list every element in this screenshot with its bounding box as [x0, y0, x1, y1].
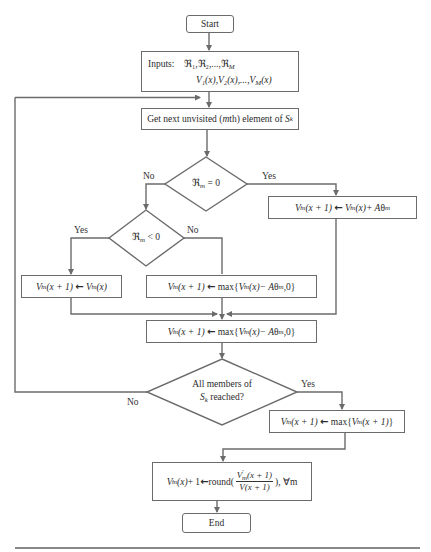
- start-label: Start: [201, 19, 219, 29]
- merge-update-box: V′m(x + 1) ← max{V′m(x) − Aθm,0}: [146, 320, 317, 343]
- max-open: max{: [218, 282, 239, 292]
- decision-1-yes-label: Yes: [262, 171, 276, 181]
- inputs-box: Inputs: ℜ₁,ℜ₂,...,ℜM V₁(x),V₂(x),...,VM(…: [141, 51, 299, 92]
- all-members-text: All members of: [177, 378, 267, 391]
- end-label: End: [209, 518, 224, 528]
- of-x: (x): [177, 477, 188, 487]
- fraction-numerator: V′m(x + 1): [236, 470, 273, 482]
- max-open: max{: [331, 417, 352, 427]
- max-step-box: V′m(x + 1) ← max{V′m(x + 1)}: [269, 410, 405, 433]
- decision-3-yes-label: Yes: [301, 379, 315, 389]
- decision-r-equals-zero-label: ℜm = 0: [176, 177, 236, 190]
- comma-zero: ,0}: [284, 282, 296, 292]
- x-plus-1: (x + 1): [178, 327, 204, 337]
- bottom-rule: [15, 547, 420, 549]
- max-open: max{: [218, 327, 239, 337]
- frak-r: ℜ: [192, 178, 200, 188]
- x-plus-1: (x + 1): [291, 417, 317, 427]
- get-next-element-box: Get next unvisited (mth) element of Sk: [141, 108, 299, 130]
- round-step-box: V′m(x) + 1 ←round(V′m(x + 1)V(x + 1)), ∀…: [152, 462, 312, 501]
- decision-2-no-label: No: [187, 225, 199, 235]
- lt-zero: < 0: [145, 232, 160, 242]
- assign-arrow-icon: ←: [200, 476, 208, 487]
- fraction-denominator: V(x + 1): [239, 482, 270, 493]
- inputs-line-2: V₁(x),V₂(x),...,VM(x): [148, 72, 272, 88]
- inputs-label: Inputs:: [148, 59, 174, 69]
- inputs-r-subscript: M: [229, 63, 235, 71]
- decision-2-yes-label: Yes: [74, 225, 88, 235]
- get-next-text-a: Get next unvisited (: [147, 114, 222, 124]
- x-plus-1: (x + 1): [305, 203, 331, 213]
- keep-volume-box: V′m(x + 1) ← V′m(x): [21, 275, 122, 298]
- assign-arrow-icon: ←: [207, 326, 215, 337]
- plus-a: + A: [366, 203, 380, 213]
- decision-r-less-than-zero-label: ℜm < 0: [116, 231, 176, 244]
- assign-arrow-icon: ←: [207, 281, 215, 292]
- frak-r: ℜ: [132, 232, 140, 242]
- reached: reached?: [208, 392, 244, 402]
- round-open: round(: [209, 477, 234, 487]
- assign-arrow-icon: ←: [75, 281, 83, 292]
- increase-volume-box: V′m(x + 1) ← V′m(x) + Aθm: [268, 196, 417, 219]
- inputs-line-1: Inputs: ℜ₁,ℜ₂,...,ℜM: [148, 56, 235, 72]
- x-plus-1: (x + 1): [362, 417, 388, 427]
- inputs-r-list: ℜ₁,ℜ₂,...,ℜ: [184, 59, 229, 69]
- inputs-v-arg: (x): [261, 75, 272, 85]
- get-next-text-b: th) element of: [229, 114, 282, 124]
- of-x: (x): [249, 327, 260, 337]
- close-brace: }: [389, 417, 394, 427]
- start-terminal: Start: [186, 15, 234, 33]
- of-x: (x): [96, 282, 107, 292]
- decrease-volume-box: V′m(x + 1) ← max{V′m(x) − Aθm,0}: [146, 275, 317, 298]
- of-x: (x): [355, 203, 366, 213]
- get-next-k: k: [290, 115, 293, 123]
- minus-a: − A: [260, 282, 274, 292]
- decision-3-no-label: No: [127, 397, 139, 407]
- comma-zero: ,0}: [284, 327, 296, 337]
- plus-one: + 1: [188, 477, 200, 487]
- decision-1-no-label: No: [143, 171, 155, 181]
- fraction: V′m(x + 1)V(x + 1): [236, 470, 273, 493]
- get-next-m: m: [222, 114, 229, 124]
- eq-zero: = 0: [205, 178, 220, 188]
- assign-arrow-icon: ←: [334, 202, 342, 213]
- round-close: ), ∀m: [275, 476, 297, 487]
- end-terminal: End: [182, 513, 251, 533]
- decision-all-members-label: All members of Sk reached?: [177, 378, 267, 404]
- sk-reached-text: Sk reached?: [177, 391, 267, 404]
- minus-a: − A: [260, 327, 274, 337]
- inputs-v-list: V₁(x),V₂(x),...,V: [196, 75, 255, 85]
- x-plus-1: (x + 1): [178, 282, 204, 292]
- sub-m: m: [385, 204, 390, 212]
- of-x: (x): [249, 282, 260, 292]
- x-plus-1: (x + 1): [46, 282, 72, 292]
- v-denominator: V(x + 1): [239, 482, 270, 492]
- x-plus-1: (x + 1): [247, 470, 272, 480]
- assign-arrow-icon: ←: [320, 416, 328, 427]
